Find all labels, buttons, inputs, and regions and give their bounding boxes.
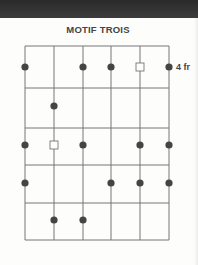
note-dot-icon (79, 63, 86, 70)
note-dot-icon (136, 179, 143, 186)
note-dot-icon (79, 141, 86, 148)
note-dot-icon (79, 216, 86, 223)
note-dot-icon (21, 141, 28, 148)
note-dot-icon (21, 63, 28, 70)
note-dot-icon (107, 63, 114, 70)
note-dot-icon (50, 102, 57, 109)
note-dot-icon (50, 216, 57, 223)
note-dot-icon (165, 141, 172, 148)
note-dot-icon (21, 179, 28, 186)
fretboard-diagram (0, 0, 198, 265)
root-square-icon (136, 63, 144, 71)
fret-position-label: 4 fr (176, 62, 190, 72)
note-dot-icon (165, 179, 172, 186)
note-dot-icon (165, 63, 172, 70)
note-dot-icon (136, 141, 143, 148)
note-dot-icon (107, 179, 114, 186)
root-square-icon (50, 141, 58, 149)
